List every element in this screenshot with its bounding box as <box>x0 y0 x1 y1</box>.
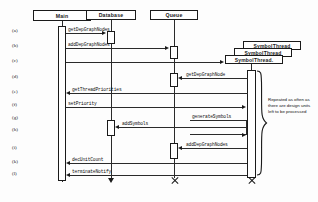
message-line-h <box>119 127 247 128</box>
termination-x-queue <box>170 176 179 185</box>
message-arrow-l <box>66 173 70 177</box>
message-line-l <box>70 175 247 176</box>
termination-x-symbolthread <box>247 176 256 185</box>
row-label-c: (c) <box>12 58 18 63</box>
message-label-d: getDepGraphNode <box>186 72 225 77</box>
message-arrow-d <box>178 76 182 80</box>
actor-box-symbolthread-1[interactable]: SymbolThread. <box>225 55 283 64</box>
activation-symbolthread <box>247 70 256 178</box>
message-line-a <box>66 33 103 34</box>
row-label-h: (h) <box>12 127 18 132</box>
activation-queue-i <box>170 143 178 159</box>
message-arrow-f <box>242 105 246 109</box>
activation-main <box>58 26 66 181</box>
message-label-g: generateSymbols <box>192 114 231 119</box>
activation-queue-b <box>170 46 178 59</box>
message-line-b <box>66 48 166 49</box>
termination-arrow-database <box>108 178 114 183</box>
message-label-b: addDepGraphNodes <box>68 42 110 47</box>
message-line-d <box>182 78 248 79</box>
row-label-d: (d) <box>12 74 18 79</box>
row-label-i: (i) <box>12 145 17 150</box>
actor-label-symbolthread-1: SymbolThread. <box>235 57 274 63</box>
row-label-k: (k) <box>12 159 18 164</box>
message-label-k: decUnitCount <box>72 157 103 162</box>
message-arrow-h <box>115 125 119 129</box>
message-line-c <box>66 62 221 63</box>
row-label-l: (l) <box>12 171 17 176</box>
actor-label-queue: Queue <box>165 12 182 18</box>
row-label-b: (b) <box>12 43 18 48</box>
message-line-e <box>70 93 248 94</box>
message-label-l: terminateNotify <box>72 169 111 174</box>
message-arrow-c <box>220 60 224 64</box>
message-arrow-g <box>242 133 246 137</box>
actor-box-queue[interactable]: Queue <box>150 10 198 20</box>
row-label-e: (e) <box>12 89 18 94</box>
repeat-note-text: Repeated as often as there are design un… <box>268 97 316 114</box>
activation-queue-d <box>170 73 178 87</box>
actor-label-main: Main <box>56 13 69 19</box>
actor-box-main[interactable]: Main <box>33 10 91 21</box>
row-label-g: (g) <box>12 115 18 120</box>
sequence-diagram-canvas: Main Database Queue SymbolThread SymbolT… <box>0 0 318 202</box>
message-label-a: getDepGraphNodes <box>68 27 110 32</box>
row-label-a: (a) <box>12 28 18 33</box>
message-line-f <box>66 107 243 108</box>
message-line-i <box>182 148 247 149</box>
message-arrow-k <box>66 161 70 165</box>
message-label-f: setPriority <box>68 101 97 106</box>
message-label-e: getThreadPriorities <box>72 87 122 92</box>
message-arrow-b <box>165 46 169 50</box>
repeat-brace-icon <box>256 70 268 176</box>
message-arrow-i <box>178 146 182 150</box>
message-line-k <box>70 163 247 164</box>
message-label-h: addSymbols <box>122 121 148 126</box>
activation-database-h <box>107 120 115 136</box>
actor-label-database: Database <box>99 12 124 18</box>
actor-box-database[interactable]: Database <box>86 10 136 20</box>
message-arrow-e <box>66 91 70 95</box>
row-label-f: (f) <box>12 102 17 107</box>
message-label-i: addDepGraphNodes <box>186 142 228 147</box>
